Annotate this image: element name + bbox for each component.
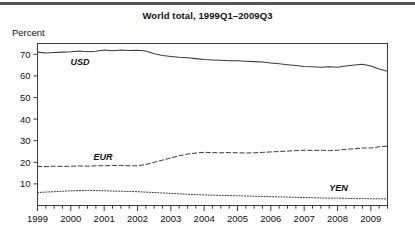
x-tick-label: 2004 bbox=[194, 213, 215, 224]
x-tick-label: 2000 bbox=[60, 213, 81, 224]
x-tick-label: 2006 bbox=[260, 213, 281, 224]
y-tick-label: 60 bbox=[20, 70, 31, 81]
series-line-usd bbox=[38, 50, 388, 71]
x-tick-label: 2005 bbox=[227, 213, 248, 224]
y-tick-label: 30 bbox=[20, 135, 31, 146]
series-label-usd: USD bbox=[71, 57, 91, 67]
x-tick-label: 2008 bbox=[327, 213, 348, 224]
x-tick-label: 2003 bbox=[160, 213, 181, 224]
series-label-eur: EUR bbox=[94, 152, 114, 162]
y-tick-label: 70 bbox=[20, 49, 31, 60]
series-layer bbox=[38, 50, 388, 199]
x-tick-label: 2001 bbox=[94, 213, 115, 224]
x-axis-ticks: 1999200020012002200320042005200620072008… bbox=[27, 206, 388, 224]
x-tick-label: 2002 bbox=[127, 213, 148, 224]
series-annotations: USDEURYEN bbox=[71, 57, 349, 193]
series-line-eur bbox=[38, 146, 388, 167]
plot-frame bbox=[38, 44, 388, 206]
series-label-yen: YEN bbox=[329, 183, 348, 193]
y-tick-label: 40 bbox=[20, 114, 31, 125]
y-tick-label: 20 bbox=[20, 157, 31, 168]
x-tick-label: 2009 bbox=[360, 213, 381, 224]
chart-figure: World total, 1999Q1–2009Q3 Percent 10203… bbox=[0, 0, 415, 230]
y-tick-label: 10 bbox=[20, 178, 31, 189]
x-tick-label: 1999 bbox=[27, 213, 48, 224]
x-tick-label: 2007 bbox=[294, 213, 315, 224]
y-tick-label: 50 bbox=[20, 92, 31, 103]
chart-plot-area: 10203040506070 1999200020012002200320042… bbox=[0, 0, 415, 230]
y-axis-ticks: 10203040506070 bbox=[20, 49, 38, 190]
